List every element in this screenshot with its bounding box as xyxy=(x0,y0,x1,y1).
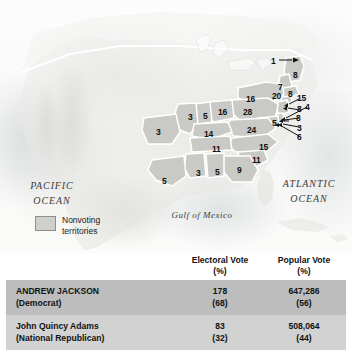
electoral-vote-number: 8 xyxy=(293,71,298,80)
popular-vote-value: 647,286 xyxy=(262,286,346,298)
candidate-name: ANDREW JACKSON xyxy=(16,286,178,298)
election-results-table: Electoral Vote (%) Popular Vote (%) ANDR… xyxy=(6,255,346,350)
electoral-map: 1878201615488283561653324141115119535 PA… xyxy=(0,0,352,253)
popular-vote-percent: (44) xyxy=(262,333,346,345)
legend-label: Nonvoting territories xyxy=(62,215,100,236)
electoral-vote-number: 5 xyxy=(203,112,208,121)
electoral-vote-cell: 83 (32) xyxy=(178,321,262,344)
electoral-vote-number: 16 xyxy=(218,108,227,117)
candidate-party: (Democrat) xyxy=(16,298,178,310)
electoral-vote-value: 178 xyxy=(178,286,262,298)
electoral-vote-percent: (68) xyxy=(178,298,262,310)
state-missouri xyxy=(142,114,180,144)
electoral-vote-number: 5 xyxy=(272,119,277,128)
electoral-vote-number: 8 xyxy=(296,114,301,123)
electoral-vote-value: 83 xyxy=(178,321,262,333)
electoral-vote-number: 3 xyxy=(156,128,161,137)
column-header-popular-vote: Popular Vote (%) xyxy=(262,255,346,276)
candidate-cell: ANDREW JACKSON (Democrat) xyxy=(6,280,178,315)
pacific-line-1: PACIFIC xyxy=(8,178,96,193)
state-mississippi xyxy=(184,153,206,178)
caribbean-islands xyxy=(276,218,348,242)
pacific-line-2: OCEAN xyxy=(8,193,96,208)
electoral-vote-number: 3 xyxy=(188,113,193,122)
electoral-vote-number: 11 xyxy=(252,156,261,165)
atlantic-ocean-label: ATLANTIC OCEAN xyxy=(268,176,350,206)
table-row: John Quincy Adams (National Republican) … xyxy=(6,315,346,350)
popular-vote-cell: 508,064 (44) xyxy=(262,321,346,344)
electoral-vote-header-line-1: Electoral Vote xyxy=(178,255,262,266)
electoral-vote-header-line-2: (%) xyxy=(178,266,262,277)
popular-vote-percent: (56) xyxy=(262,298,346,310)
electoral-vote-number: 28 xyxy=(243,108,252,117)
table-header-row: Electoral Vote (%) Popular Vote (%) xyxy=(6,255,346,280)
electoral-vote-percent: (32) xyxy=(178,333,262,345)
electoral-vote-number: 1 xyxy=(271,57,276,66)
candidate-cell: John Quincy Adams (National Republican) xyxy=(6,315,178,350)
table-row: ANDREW JACKSON (Democrat) 178 (68) 647,2… xyxy=(6,280,346,315)
electoral-vote-number: 6 xyxy=(297,133,302,142)
electoral-vote-cell: 178 (68) xyxy=(178,286,262,309)
candidate-party: (National Republican) xyxy=(16,333,178,345)
electoral-vote-number: 20 xyxy=(272,92,281,101)
legend-swatch-nonvoting-territories xyxy=(35,216,56,231)
atlantic-line-2: OCEAN xyxy=(268,191,350,206)
atlantic-line-1: ATLANTIC xyxy=(268,176,350,191)
legend-label-line-1: Nonvoting xyxy=(62,215,100,226)
electoral-vote-number: 16 xyxy=(246,95,255,104)
gulf-of-mexico-label: Gulf of Mexico xyxy=(152,210,252,220)
electoral-vote-number: 9 xyxy=(237,166,242,175)
electoral-vote-number: 14 xyxy=(204,130,213,139)
electoral-vote-number: 5 xyxy=(162,177,167,186)
popular-vote-header-line-2: (%) xyxy=(262,266,346,277)
candidate-name: John Quincy Adams xyxy=(16,321,178,333)
electoral-vote-number: 24 xyxy=(247,126,256,135)
electoral-vote-number: 8 xyxy=(288,90,293,99)
table-header-spacer xyxy=(6,255,178,276)
electoral-vote-number: 11 xyxy=(212,145,221,154)
electoral-vote-number: 4 xyxy=(305,103,310,112)
electoral-vote-number: 15 xyxy=(259,143,268,152)
electoral-vote-number: 5 xyxy=(215,168,220,177)
popular-vote-cell: 647,286 (56) xyxy=(262,286,346,309)
popular-vote-header-line-1: Popular Vote xyxy=(262,255,346,266)
pacific-ocean-label: PACIFIC OCEAN xyxy=(8,178,96,208)
electoral-vote-number: 3 xyxy=(196,169,201,178)
column-header-electoral-vote: Electoral Vote (%) xyxy=(178,255,262,276)
popular-vote-value: 508,064 xyxy=(262,321,346,333)
legend-label-line-2: territories xyxy=(62,226,100,237)
map-legend: Nonvoting territories xyxy=(35,215,100,236)
